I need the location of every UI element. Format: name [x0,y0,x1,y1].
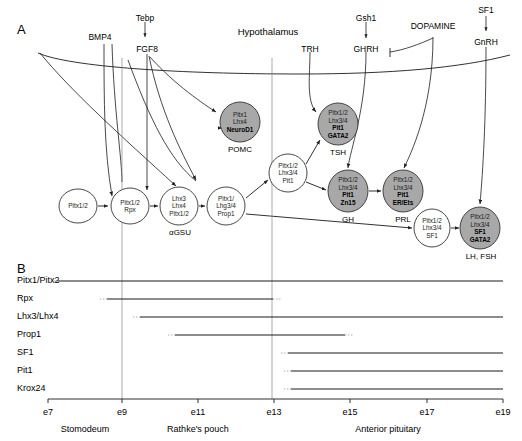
signal-label-gnrh: GnRH [474,38,498,47]
node-agsu-line-2: Pitx1/2 [169,210,189,217]
gene-label-3: Prop1 [17,330,41,339]
stage-label-2: Anterior pituitary [355,424,421,434]
node-lhfsh-line-0: Pitx1/2 [470,213,490,220]
node-prop1[interactable]: Pitx1/Lhg3/4Prop1 [207,187,245,225]
signal-label-dopamine: DOPAMINE [411,22,456,31]
node-sf1w-line-0: Pitx1/2 [422,217,442,224]
node-agsu-line-0: Lhx3 [172,195,186,202]
node-agsu-line-1: Lhx4 [172,202,186,209]
node-sf1w[interactable]: Pitx1/2Lhx3/4SF1 [414,209,450,247]
node-gh-line-0: Pitx1/2 [338,176,358,183]
node-caption-gh: GH [342,216,354,224]
node-gh-line-2: Pit1 [342,191,354,198]
node-sf1w-line-2: SF1 [426,232,438,239]
node-prl[interactable]: Pitx1/2Lhx3/4Pit1ER/Ets [383,170,423,212]
node-agsu[interactable]: Lhx3Lhx4Pitx1/2 [160,187,198,225]
node-prl-line-2: Pit1 [397,191,409,198]
node-pit1[interactable]: Pitx1/2Lhx3/4Pit1 [269,154,307,192]
node-caption-lhfsh: LH, FSH [466,253,497,261]
node-rpx-line-1: Rpx [124,206,136,214]
node-caption-pomc: POMC [228,146,252,154]
node-tsh-line-0: Pitx1/2 [328,109,348,116]
node-rpx-line-0: Pitx1/2 [120,199,140,206]
stage-label-0: Stomodeum [61,424,110,434]
hypothalamus-label: Hypothalamus [238,27,299,37]
node-prop1-line-2: Prop1 [217,210,234,218]
node-prl-line-3: ER/Ets [393,199,414,206]
node-pomc-line-1: Lhx4 [233,118,247,125]
node-tsh-line-1: Lhx3/4 [328,117,348,124]
axis-tick-label-4: e15 [342,407,357,417]
gene-label-0: Pitx1/Pitx2 [17,276,60,285]
node-prl-line-1: Lhx3/4 [393,184,413,191]
axis-tick-label-3: e13 [266,407,281,417]
node-caption-prl: PRL [395,216,411,224]
gene-label-4: SF1 [17,348,34,357]
signal-label-gsh1: Gsh1 [356,14,376,23]
node-gh-line-1: Lhx3/4 [338,184,358,191]
node-rpx[interactable]: Pitx1/2Rpx [111,188,149,224]
panel-a-letter: A [17,22,26,37]
node-lhfsh[interactable]: Pitx1/2Lhx3/4SF1GATA2 [460,207,500,249]
gene-label-5: Pit1 [17,366,33,375]
node-pomc-line-0: Pitx1 [233,111,248,118]
signal-label-sf1: SF1 [478,6,494,15]
bmp4-signal-lines [104,44,122,196]
signal-label-trh: TRH [301,45,318,54]
node-lhfsh-line-1: Lhx3/4 [470,221,490,228]
node-sf1w-line-1: Lhx3/4 [422,224,442,231]
node-pit1-line-2: Pit1 [282,177,293,184]
node-tsh-line-3: GATA2 [328,132,349,139]
gene-label-2: Lhx3/Lhx4 [17,312,59,321]
node-pitx12[interactable]: Pitx1/2 [59,189,97,223]
expression-bars [51,281,503,389]
figure-root: Pitx1/2Pitx1/2RpxLhx3Lhx4Pitx1/2Pitx1/Lh… [0,0,522,441]
axis-tick-label-2: e11 [191,407,205,417]
gene-label-6: Krox24 [17,384,46,393]
node-pit1-line-0: Pitx1/2 [278,162,298,169]
node-gh-line-3: Zn15 [341,199,356,206]
axis-tick-label-1: e9 [117,407,127,417]
time-axis [48,399,503,403]
node-caption-tsh: TSH [330,149,346,157]
node-pomc[interactable]: Pitx1Lhx4NeuroD1 [220,102,260,142]
signal-label-bmp4: BMP4 [88,33,111,42]
signal-label-fgf8: FGF8 [136,45,158,54]
gene-label-1: Rpx [17,294,33,303]
node-prl-line-0: Pitx1/2 [393,176,413,183]
axis-tick-label-6: e19 [495,407,510,417]
panel-b-letter: B [17,261,26,276]
node-pit1-line-1: Lhx3/4 [278,169,298,176]
node-tsh[interactable]: Pitx1/2Lhx3/4Pit1GATA2 [318,103,358,145]
node-pomc-line-2: NeuroD1 [227,126,254,133]
axis-tick-label-5: e17 [419,407,434,417]
node-caption-agsu: αGSU [169,229,191,237]
signal-label-tebp: Tebp [136,14,154,23]
node-pitx12-line-0: Pitx1/2 [68,202,88,209]
tissue-boundary-curve [38,53,510,74]
cell-type-nodes: Pitx1/2Pitx1/2RpxLhx3Lhx4Pitx1/2Pitx1/Lh… [59,102,500,249]
node-tsh-line-2: Pit1 [332,124,344,131]
axis-tick-label-0: e7 [43,407,53,417]
node-lhfsh-line-3: GATA2 [470,236,491,243]
fgf8-signal-lines [40,53,216,190]
node-lhfsh-line-2: SF1 [474,228,486,235]
signal-label-ghrh: GHRH [353,45,378,54]
stage-label-1: Rathke's pouch [167,424,229,434]
node-gh[interactable]: Pitx1/2Lhx3/4Pit1Zn15 [328,170,368,212]
node-prop1-line-0: Pitx1/ [218,195,234,202]
figure-canvas: Pitx1/2Pitx1/2RpxLhx3Lhx4Pitx1/2Pitx1/Lh… [0,0,522,441]
